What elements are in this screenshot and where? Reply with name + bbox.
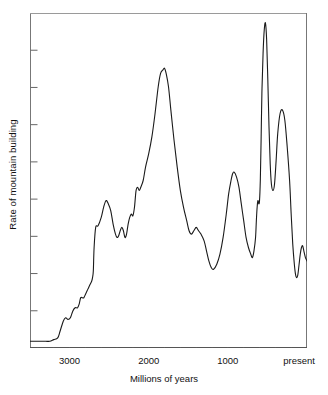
plot-area [30, 13, 307, 348]
x-tick-label: 2000 [119, 355, 179, 366]
x-axis-title: Millions of years [0, 373, 328, 384]
line-chart-svg [30, 13, 307, 348]
data-series-line [30, 23, 307, 342]
y-axis-ticks [31, 50, 38, 311]
y-axis-title-text: Rate of mountain building [7, 119, 18, 229]
y-axis-title: Rate of mountain building [0, 0, 24, 348]
x-tick-label: present [269, 355, 328, 366]
chart-figure: Rate of mountain building 300020001000pr… [0, 0, 328, 395]
x-tick-label: 1000 [198, 355, 258, 366]
x-axis-title-text: Millions of years [130, 373, 198, 384]
x-tick-label: 3000 [40, 355, 100, 366]
axis-frame [30, 13, 307, 348]
